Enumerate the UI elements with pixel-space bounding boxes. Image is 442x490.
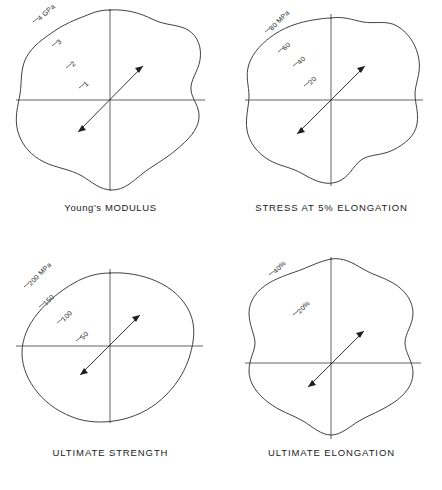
contour-tick-20percent: 20%: [293, 299, 311, 315]
plot-ultimate-elongation: 40% 20%: [221, 245, 442, 445]
contour-tick-80mpa: 80 MPa: [265, 9, 291, 32]
contour-tick-2: 2: [66, 60, 77, 68]
contour-tick-4gpa: 4 GPa: [33, 3, 56, 22]
caption-text: Young's MODULUS: [64, 202, 156, 213]
figure-anisotropy-polar-plots: 4 GPa 3 2 1 Young's MODULUS: [0, 0, 442, 490]
caption-text: ULTIMATE ELONGATION: [268, 447, 395, 458]
plot-youngs-modulus: 4 GPa 3 2 1: [0, 0, 221, 200]
panel-ultimate-elongation: 40% 20% ULTIMATE ELONGATION: [221, 245, 442, 490]
contour-tick-40percent: 40%: [269, 259, 287, 275]
caption-youngs-modulus: Young's MODULUS: [0, 202, 221, 213]
svg-text:2: 2: [69, 60, 77, 68]
plot-ultimate-strength: 200 MPa 150 100 50: [0, 245, 221, 445]
svg-text:100: 100: [60, 309, 74, 323]
contour-tick-40: 40: [293, 55, 306, 66]
principal-direction-arrow: [308, 331, 364, 387]
contour-tick-60: 60: [278, 41, 291, 52]
caption-ultimate-strength: ULTIMATE STRENGTH: [0, 447, 221, 458]
svg-text:1: 1: [82, 80, 90, 88]
caption-ultimate-elongation: ULTIMATE ELONGATION: [221, 447, 442, 458]
svg-text:80 MPa: 80 MPa: [268, 9, 291, 32]
plot-stress-at-5-percent-elongation: 80 MPa 60 40 20: [221, 0, 442, 200]
panel-youngs-modulus: 4 GPa 3 2 1 Young's MODULUS: [0, 0, 221, 245]
svg-text:60: 60: [281, 41, 292, 52]
svg-text:50: 50: [79, 330, 90, 341]
caption-text: STRESS AT 5% ELONGATION: [255, 202, 408, 213]
svg-text:4 GPa: 4 GPa: [36, 3, 56, 22]
contour-tick-200mpa: 200 MPa: [24, 261, 53, 287]
contour-tick-1: 1: [79, 80, 90, 88]
contour-tick-3: 3: [52, 38, 63, 46]
contour-tick-50: 50: [76, 330, 89, 341]
svg-text:150: 150: [42, 293, 56, 307]
caption-text: ULTIMATE STRENGTH: [53, 447, 169, 458]
contour-tick-150: 150: [39, 293, 55, 307]
caption-stress-at-5-percent-elongation: STRESS AT 5% ELONGATION: [221, 202, 442, 213]
contour-tick-100: 100: [57, 309, 73, 323]
svg-text:20: 20: [307, 75, 318, 86]
panel-ultimate-strength: 200 MPa 150 100 50 ULTIMATE STRENGTH: [0, 245, 221, 490]
svg-text:20%: 20%: [296, 299, 311, 314]
svg-text:40%: 40%: [272, 259, 287, 274]
contour-tick-20: 20: [304, 75, 317, 86]
svg-text:3: 3: [55, 38, 63, 46]
svg-text:200 MPa: 200 MPa: [27, 261, 53, 287]
principal-direction-arrow: [78, 66, 143, 132]
panel-stress-at-5-percent-elongation: 80 MPa 60 40 20 STRESS AT 5% ELONGATION: [221, 0, 442, 245]
svg-text:40: 40: [296, 55, 307, 66]
